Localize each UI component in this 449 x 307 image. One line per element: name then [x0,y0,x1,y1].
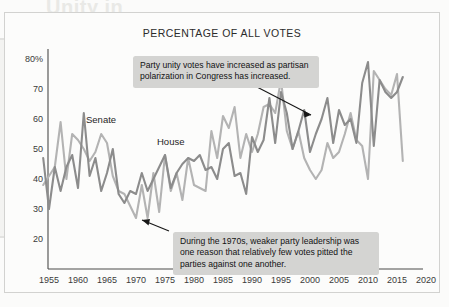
x-tick-label: 1965 [97,275,117,285]
house-series-line [43,71,403,218]
y-tick-label: 70 [33,84,43,94]
x-tick-label: 1975 [155,275,175,285]
y-tick-label: 80% [25,54,43,64]
bottom-annotation-text: During the 1970s, weaker party leadershi… [180,236,372,270]
x-tick-label: 1980 [184,275,204,285]
y-tick-label: 40 [33,174,43,184]
x-tick-label: 1970 [126,275,146,285]
bottom-annotation-callout: During the 1970s, weaker party leadershi… [173,232,379,275]
x-tick-label: 2010 [358,275,378,285]
top-annotation-callout: Party unity votes have increased as part… [133,56,319,88]
y-tick-label: 50 [33,144,43,154]
x-tick-label: 1960 [68,275,88,285]
x-tick-label: 1990 [242,275,262,285]
y-tick-label: 20 [33,234,43,244]
figure-page: Unity in Congress Party Unity Scores Par… [0,0,449,307]
senate-series-label: Senate [86,114,116,125]
y-tick-label: 60 [33,114,43,124]
x-tick-label: 1985 [213,275,233,285]
y-tick-label: 30 [33,204,43,214]
x-tick-label: 2020 [416,275,436,285]
x-tick-label: 2015 [387,275,407,285]
house-series-label: House [157,136,184,147]
x-tick-label: 1955 [39,275,59,285]
x-tick-label: 1995 [271,275,291,285]
chart-panel: PERCENTAGE OF ALL VOTES 80% 70 60 50 40 … [4,12,440,293]
top-annotation-text: Party unity votes have increased as part… [140,60,312,83]
x-tick-label: 2005 [329,275,349,285]
x-tick-label: 2000 [300,275,320,285]
bottom-annotation-arrow [142,219,169,231]
